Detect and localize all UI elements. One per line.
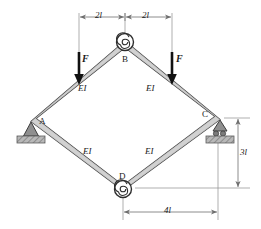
node-label-A: A bbox=[39, 117, 46, 126]
member-label-EI-upper-right: EI bbox=[146, 84, 155, 93]
member-label-EI-lower-left: EI bbox=[83, 147, 92, 156]
joint-B-spiral-hinge bbox=[117, 33, 134, 51]
load-label-right: F bbox=[176, 54, 183, 64]
load-label-left: F bbox=[82, 54, 89, 64]
node-label-B: B bbox=[122, 55, 128, 64]
dimension-label-top-right: 2l bbox=[142, 11, 149, 20]
member-inner-edge bbox=[36, 48, 215, 186]
member-label-EI-lower-right: EI bbox=[145, 147, 154, 156]
member-label-EI-upper-left: EI bbox=[78, 84, 87, 93]
dimension-label-bottom: 4l bbox=[164, 206, 171, 215]
dimension-label-right: 3l bbox=[240, 148, 247, 157]
structural-frame-figure: 2l 2l 3l 4l F F A B C D EI EI EI EI bbox=[0, 0, 261, 229]
node-label-C: C bbox=[202, 110, 208, 119]
dimension-layer bbox=[79, 13, 250, 220]
frame-drawing bbox=[0, 0, 261, 229]
dimension-label-top-left: 2l bbox=[95, 11, 102, 20]
node-label-D: D bbox=[119, 172, 126, 181]
joint-D-spiral-hinge bbox=[115, 180, 132, 198]
